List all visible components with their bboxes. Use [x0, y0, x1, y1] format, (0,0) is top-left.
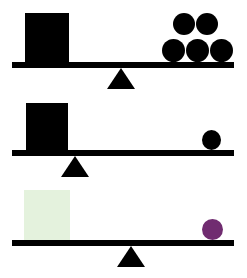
- left-square-block: [25, 13, 69, 62]
- balance-scale-panel-2: [0, 93, 247, 183]
- right-circle-ball: [202, 219, 223, 240]
- right-circle-ball: [196, 13, 218, 35]
- left-square-block: [26, 103, 68, 150]
- balance-scale-panel-1: [0, 0, 247, 93]
- fulcrum-triangle: [61, 156, 89, 177]
- right-circle-ball: [162, 39, 185, 62]
- balance-scale-panel-3: [0, 183, 247, 278]
- fulcrum-triangle: [107, 68, 135, 89]
- right-circle-ball: [202, 130, 221, 150]
- left-square-block: [24, 190, 70, 240]
- fulcrum-triangle: [117, 246, 145, 267]
- figure-canvas: [0, 0, 247, 278]
- right-circle-ball: [210, 39, 233, 62]
- right-circle-ball: [186, 39, 209, 62]
- right-circle-ball: [173, 13, 195, 35]
- balance-beam: [12, 150, 234, 156]
